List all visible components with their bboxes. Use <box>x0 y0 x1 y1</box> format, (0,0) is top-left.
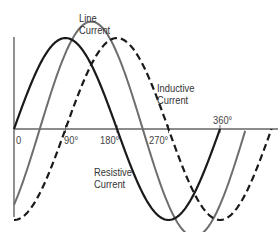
inductive-current-label-line2: Current <box>157 94 194 106</box>
waveform-diagram <box>0 0 278 232</box>
inductive-current-label: Inductive Current <box>157 82 194 106</box>
tick-label-270: 270° <box>149 134 168 146</box>
resistive-current-label: Resistive Current <box>94 166 132 190</box>
line-current-curve <box>14 22 245 232</box>
tick-label-360: 360° <box>213 114 232 126</box>
tick-label-0: 0 <box>16 134 21 146</box>
line-current-label-line2: Current <box>79 24 110 36</box>
line-current-label-line1: Line <box>79 12 110 24</box>
resistive-current-label-line1: Resistive <box>94 166 132 178</box>
tick-label-90: 90° <box>64 134 78 146</box>
inductive-current-label-line1: Inductive <box>157 82 194 94</box>
line-current-label: Line Current <box>79 12 110 36</box>
tick-label-180: 180° <box>100 134 119 146</box>
resistive-current-label-line2: Current <box>94 178 132 190</box>
